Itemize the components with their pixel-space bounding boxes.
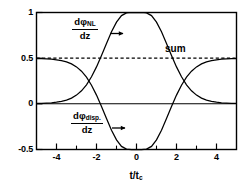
nl-phi-symbol: φ [80,16,87,27]
disp-phi-symbol: φ [79,110,86,121]
disp-denominator: dz [71,124,103,134]
x-axis-title-main: t/t [129,170,138,181]
disp-annotation: dφdisp. dz [59,111,115,136]
nl-annotation: dφNL dz [59,17,111,42]
plot-canvas [0,0,251,193]
x-axis-title: t/tc [106,171,166,182]
sum-annotation-label: sum [165,44,186,54]
x-tick-label-minus4: -4 [45,153,69,162]
y-tick-label-minus0_5: -0.5 [7,145,33,154]
nl-denominator: dz [72,30,97,40]
disp-numerator: dφdisp. [71,111,103,122]
nl-subscript: NL [87,20,96,27]
y-tick-label-0: 0 [7,99,33,108]
x-tick-label-minus2: -2 [85,153,109,162]
x-tick-label-0: 0 [125,153,149,162]
nl-numerator: dφNL [72,17,97,28]
nl-fraction: dφNL dz [72,17,97,40]
disp-fraction: dφdisp. dz [71,111,103,134]
disp-subscript: disp. [86,114,101,121]
y-tick-label-0_5: 0.5 [7,54,33,63]
y-tick-label-1: 1 [7,8,33,17]
chart-figure: 1 0.5 0 -0.5 -4 -2 0 2 4 t/tc dφNL dz dφ… [0,0,251,193]
x-tick-label-2: 2 [165,153,189,162]
x-tick-label-4: 4 [205,153,229,162]
x-axis-title-subscript: c [139,174,143,181]
